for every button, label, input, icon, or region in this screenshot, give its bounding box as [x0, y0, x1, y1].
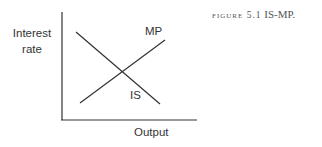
is-mp-diagram: [0, 0, 322, 147]
figure-number: Figure 5.1: [212, 10, 262, 20]
mp-label: MP: [145, 25, 162, 37]
y-axis-label-line1: Interest: [4, 25, 60, 41]
y-axis-label-line2: rate: [4, 41, 60, 57]
x-axis-label: Output: [134, 126, 169, 138]
is-curve: [76, 32, 160, 104]
is-label: IS: [130, 89, 141, 101]
figure-title: IS-MP.: [264, 8, 295, 20]
mp-curve: [80, 40, 165, 103]
y-axis-label: Interest rate: [4, 25, 60, 57]
figure-caption: Figure 5.1 IS-MP.: [212, 8, 295, 20]
